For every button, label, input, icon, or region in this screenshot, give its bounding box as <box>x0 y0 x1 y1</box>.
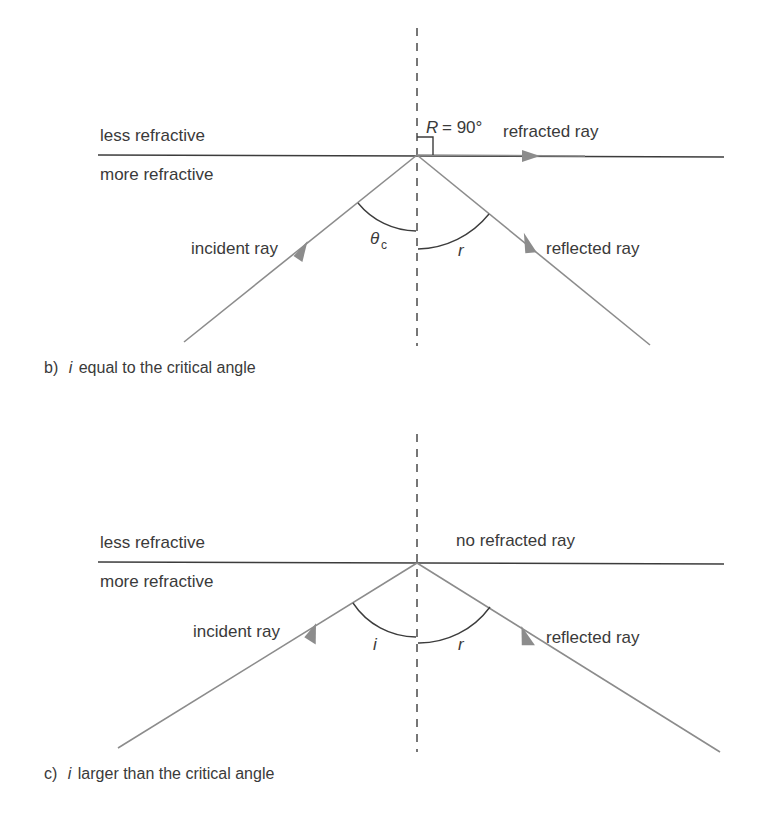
reflected-ray <box>417 563 720 752</box>
critical-angle-arc <box>358 203 416 231</box>
medium-bottom-label: more refractive <box>100 165 213 184</box>
reflected-ray-label: reflected ray <box>546 239 640 258</box>
incident-ray-label: incident ray <box>193 622 280 641</box>
refracted-ray-arrow-icon <box>522 150 540 162</box>
medium-top-label: less refractive <box>100 126 205 145</box>
right-angle-marker <box>417 137 433 155</box>
total-internal-reflection-diagram: less refractive more refractive incident… <box>0 0 763 813</box>
reflection-angle-arc <box>418 607 490 643</box>
refracted-ray <box>417 155 585 156</box>
incidence-angle-arc <box>353 603 416 637</box>
caption-c-symbol: i <box>68 765 72 782</box>
incident-ray-arrow-icon <box>292 241 311 263</box>
refraction-angle-value: = 90° <box>442 118 482 137</box>
reflection-angle-arc <box>418 214 489 249</box>
incidence-angle-symbol: i <box>373 635 378 654</box>
caption-b-prefix: b) <box>44 359 58 376</box>
caption-c-prefix: c) <box>44 765 57 782</box>
boundary-line <box>98 562 724 564</box>
caption-c: c) i larger than the critical angle <box>44 765 274 782</box>
incident-ray-arrow-icon <box>302 623 319 646</box>
figure-b: less refractive more refractive incident… <box>44 28 724 376</box>
caption-b-symbol: i <box>69 359 73 376</box>
no-refracted-ray-label: no refracted ray <box>456 531 576 550</box>
medium-top-label: less refractive <box>100 533 205 552</box>
caption-b-text: equal to the critical angle <box>79 359 256 376</box>
reflection-angle-symbol: r <box>458 241 465 260</box>
critical-angle-subscript: c <box>381 238 387 252</box>
reflection-angle-symbol: r <box>458 635 465 654</box>
boundary-line <box>98 155 724 157</box>
figure-c: less refractive more refractive incident… <box>44 434 724 782</box>
refraction-angle-symbol: R <box>426 118 438 137</box>
critical-angle-symbol: θ <box>370 229 380 248</box>
refracted-ray-label: refracted ray <box>503 122 599 141</box>
medium-bottom-label: more refractive <box>100 572 213 591</box>
caption-b: b) i equal to the critical angle <box>44 359 256 376</box>
caption-c-text: larger than the critical angle <box>78 765 275 782</box>
incident-ray-label: incident ray <box>191 239 278 258</box>
reflected-ray-label: reflected ray <box>546 628 640 647</box>
